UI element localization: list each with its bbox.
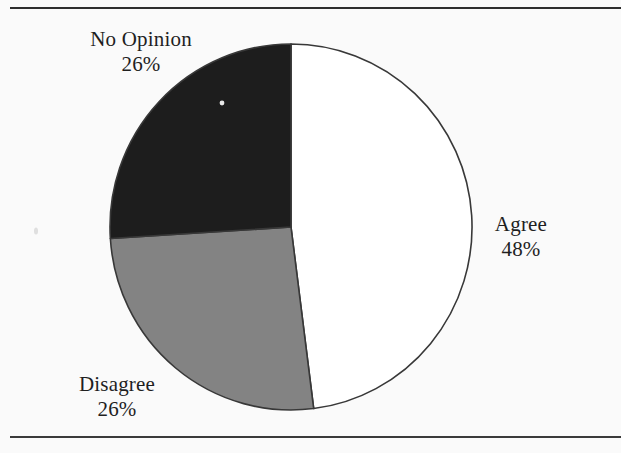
slice-label-disagree: Disagree 26% (27, 372, 207, 422)
pie-chart-figure: No Opinion 26% Agree 48% Disagree 26% (0, 0, 621, 453)
slice-label-percent: 26% (27, 397, 207, 422)
slice-label-percent: 48% (441, 237, 601, 262)
scan-artifact-dot (220, 101, 225, 106)
slice-label-no-opinion: No Opinion 26% (51, 27, 231, 77)
bottom-rule (10, 436, 621, 438)
slice-label-agree: Agree 48% (441, 212, 601, 262)
scan-artifact-speck (34, 228, 38, 235)
slice-label-text: Disagree (27, 372, 207, 397)
slice-label-percent: 26% (51, 52, 231, 77)
slice-label-text: No Opinion (51, 27, 231, 52)
slice-label-text: Agree (441, 212, 601, 237)
